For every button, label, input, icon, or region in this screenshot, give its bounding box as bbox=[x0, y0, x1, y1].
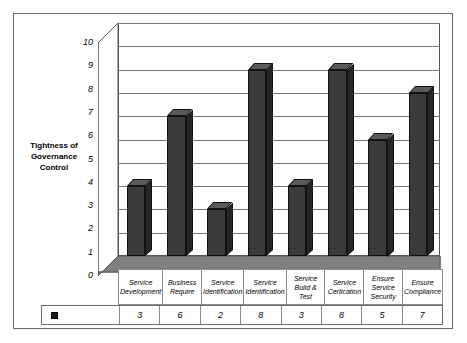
bar-side-face bbox=[145, 180, 152, 256]
bar-5 bbox=[288, 186, 307, 256]
bar-side-face bbox=[387, 133, 394, 256]
value-cell-4: 8 bbox=[241, 306, 281, 324]
bar-side-face bbox=[427, 87, 434, 256]
category-label-cell-3: ServiceIdentification bbox=[201, 269, 244, 305]
bar-front-face bbox=[127, 186, 146, 256]
bar-front-face bbox=[167, 116, 186, 256]
category-label-cell-6: ServiceCertication bbox=[324, 269, 364, 305]
y-axis-title-line-1: Tightness of bbox=[20, 140, 88, 151]
category-label-line: Identification bbox=[245, 287, 284, 296]
bar-side-face bbox=[347, 63, 354, 256]
y-tick-label: 5 bbox=[67, 154, 93, 164]
bar-front-face bbox=[328, 70, 347, 256]
category-label-line: Ensure bbox=[404, 278, 441, 287]
category-label-line: Service bbox=[120, 278, 161, 287]
category-label-line: Certication bbox=[328, 287, 361, 296]
bar-3 bbox=[207, 209, 226, 256]
bar-4 bbox=[248, 70, 267, 256]
bar-side-face bbox=[186, 110, 193, 256]
bar-front-face bbox=[248, 70, 267, 256]
bar-series bbox=[118, 23, 440, 256]
category-label-line: Service bbox=[203, 278, 242, 287]
y-tick-label: 6 bbox=[67, 130, 93, 140]
category-label-cell-2: BusinessRequire bbox=[162, 269, 202, 305]
bar-1 bbox=[127, 186, 146, 256]
bar-front-face bbox=[207, 209, 226, 256]
bar-side-face bbox=[306, 180, 313, 256]
category-label-line: Compliance bbox=[404, 287, 441, 296]
bar-side-face bbox=[226, 203, 233, 256]
category-label-line: Build & Test bbox=[288, 283, 324, 301]
bar-side-face bbox=[266, 63, 273, 256]
category-label-cell-8: EnsureCompliance bbox=[402, 269, 443, 305]
bar-front-face bbox=[368, 140, 387, 257]
bar-8 bbox=[409, 93, 428, 256]
y-tick-label: 3 bbox=[67, 200, 93, 210]
y-tick-label: 2 bbox=[67, 223, 93, 233]
legend-cell bbox=[42, 306, 120, 324]
value-cell-2: 6 bbox=[160, 306, 200, 324]
y-tick-label: 9 bbox=[67, 60, 93, 70]
bar-6 bbox=[328, 70, 347, 256]
bar-2 bbox=[167, 116, 186, 256]
value-cell-3: 2 bbox=[201, 306, 241, 324]
category-label-line: Service bbox=[371, 283, 396, 292]
plot-area: 109876543210 bbox=[98, 23, 442, 281]
y-tick-label: 10 bbox=[67, 37, 93, 47]
category-label-line: Development bbox=[120, 287, 161, 296]
y-tick-label: 4 bbox=[67, 177, 93, 187]
bar-front-face bbox=[409, 93, 428, 256]
data-value-table: 36283857 bbox=[41, 305, 443, 325]
y-tick-label: 7 bbox=[67, 107, 93, 117]
category-label-cell-7: EnsureServiceSecurity bbox=[363, 269, 403, 305]
category-label-line: Identification bbox=[203, 287, 242, 296]
legend-square-icon bbox=[51, 312, 58, 319]
chart-frame: Tightness of Governance Control 10987654… bbox=[13, 13, 453, 329]
category-label-cell-1: ServiceDevelopment bbox=[118, 269, 163, 305]
category-label-line: Ensure bbox=[371, 274, 396, 283]
bar-front-face bbox=[288, 186, 307, 256]
category-label-line: Security bbox=[371, 292, 396, 301]
category-label-cell-5: ServiceBuild & Test bbox=[286, 269, 326, 305]
category-label-line: Service bbox=[245, 278, 284, 287]
bar-7 bbox=[368, 140, 387, 257]
category-label-cell-4: ServiceIdentification bbox=[243, 269, 286, 305]
y-tick-label: 0 bbox=[67, 270, 93, 280]
category-label-line: Business bbox=[168, 278, 196, 287]
value-cell-1: 3 bbox=[120, 306, 160, 324]
category-label-line: Service bbox=[288, 274, 324, 283]
category-label-table: ServiceDevelopmentBusinessRequireService… bbox=[118, 269, 443, 305]
value-cell-6: 8 bbox=[322, 306, 362, 324]
y-tick-label: 8 bbox=[67, 84, 93, 94]
category-label-line: Service bbox=[328, 278, 361, 287]
y-tick-label: 1 bbox=[67, 247, 93, 257]
value-cell-8: 7 bbox=[403, 306, 442, 324]
value-cell-5: 3 bbox=[282, 306, 322, 324]
category-label-line: Require bbox=[168, 287, 196, 296]
value-cell-7: 5 bbox=[362, 306, 402, 324]
y-axis-title-line-3: Control bbox=[20, 162, 88, 173]
